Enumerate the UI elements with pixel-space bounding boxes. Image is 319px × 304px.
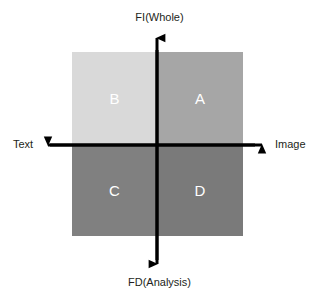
- quadrant-b: B: [72, 52, 157, 145]
- quadrant-d-label: D: [194, 183, 205, 198]
- quadrant-d: D: [157, 145, 243, 236]
- quadrant-c-label: C: [109, 183, 120, 198]
- quadrant-b-label: B: [109, 91, 119, 106]
- quadrant-diagram: B A C D: [0, 0, 319, 304]
- axis-label-top: FI(Whole): [0, 12, 319, 23]
- axis-label-bottom: FD(Analysis): [0, 277, 319, 288]
- axis-label-left: Text: [13, 139, 33, 150]
- axis-label-right: Image: [275, 139, 306, 150]
- quadrant-square: B A C D: [72, 52, 243, 236]
- quadrant-c: C: [72, 145, 157, 236]
- quadrant-a-label: A: [195, 91, 205, 106]
- quadrant-a: A: [157, 52, 243, 145]
